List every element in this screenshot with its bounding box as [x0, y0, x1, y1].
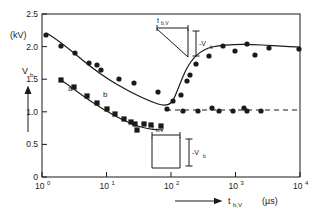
pulse-inset-v-sub: b [203, 153, 206, 159]
data-point [296, 46, 301, 51]
ramp-inset: t b,V -V b [157, 17, 213, 57]
x-axis-ticks [42, 172, 300, 177]
x-ticklabel-1e0-base: 10 [35, 181, 45, 191]
series-a-markers [58, 77, 163, 132]
pulse-inset-t-sub: b,V [156, 127, 164, 133]
data-point [184, 78, 189, 83]
y-ticklabel-2.5: 2.5 [26, 9, 38, 19]
data-point [244, 41, 249, 46]
pulse-inset-waveform [152, 137, 180, 168]
ramp-inset-v-label: -V [199, 40, 206, 47]
data-point [170, 98, 175, 103]
data-point [131, 80, 136, 85]
data-point [230, 108, 235, 113]
pulse-inset-t-label: t [152, 124, 154, 131]
data-point [58, 77, 63, 82]
x-unit-label: (µs) [262, 196, 278, 206]
data-point [72, 50, 77, 55]
data-point [258, 108, 263, 113]
data-point [180, 108, 185, 113]
y-axis-symbol: V [22, 66, 28, 76]
x-ticklabel-1e2-base: 10 [164, 181, 174, 191]
x-ticklabel-1e3: 10 3 [229, 180, 245, 191]
x-ticklabel-1e3-base: 10 [229, 181, 239, 191]
data-point [193, 61, 198, 66]
x-ticklabel-1e4-exp: 4 [305, 180, 309, 186]
data-point [58, 43, 63, 48]
data-point [178, 92, 183, 97]
data-point [266, 45, 271, 50]
data-point [232, 48, 237, 53]
data-point [141, 121, 146, 126]
y-ticklabel-0.5: 0.5 [26, 139, 38, 149]
data-point [86, 60, 91, 65]
data-point [43, 32, 48, 37]
x-ticklabel-1e1-base: 10 [100, 181, 110, 191]
data-point [112, 111, 117, 116]
x-ticklabel-1e4-base: 10 [293, 181, 303, 191]
data-point [252, 52, 257, 57]
x-ticklabel-1e0-exp: 0 [47, 180, 51, 186]
data-point [155, 89, 160, 94]
x-ticklabel-1e3-exp: 3 [241, 180, 245, 186]
data-point [116, 76, 121, 81]
pulse-inset: t b,V -V b [152, 124, 206, 168]
data-point [164, 106, 169, 111]
data-point [209, 105, 214, 110]
plot-frame [42, 14, 300, 177]
y-unit-label: (kV) [10, 30, 27, 40]
data-point [84, 93, 89, 98]
x-ticklabel-1e1-exp: 1 [112, 180, 116, 186]
x-axis-symbol-sub: b,V [233, 202, 242, 208]
data-point [220, 43, 225, 48]
x-axis-symbol: t [228, 196, 231, 206]
data-point [187, 72, 192, 77]
data-point [206, 53, 211, 58]
data-point [195, 108, 200, 113]
x-ticklabel-1e4: 10 4 [293, 180, 309, 191]
x-axis-tick-labels: 10 0 10 1 10 2 10 3 10 4 [35, 180, 309, 191]
y-axis-ticks [42, 14, 47, 177]
x-ticklabel-1e2: 10 2 [164, 180, 180, 191]
data-point [94, 100, 99, 105]
y-arrow-head [25, 86, 32, 95]
data-point [244, 108, 249, 113]
x-ticklabel-1e1: 10 1 [100, 180, 116, 191]
x-ticklabel-1e2-exp: 2 [176, 180, 180, 186]
curve-label-a: a [68, 84, 73, 93]
plot-border [42, 14, 300, 177]
figure-container: 2.5 2.0 1.5 1.0 0.5 0 (kV) V b 10 [0, 0, 315, 210]
data-point [94, 62, 99, 67]
curve-label-b: b [103, 90, 108, 99]
ramp-inset-waveform [157, 29, 188, 57]
data-point [132, 121, 137, 126]
pulse-inset-v-label: -V [192, 149, 199, 156]
data-point [98, 67, 103, 72]
x-arrow-head [214, 198, 223, 204]
ramp-inset-t-label: t [157, 17, 159, 24]
x-ticklabel-1e0: 10 0 [35, 180, 51, 191]
ramp-inset-v-sub: b [210, 44, 213, 50]
y-ticklabel-2.0: 2.0 [26, 42, 38, 52]
data-point [104, 106, 109, 111]
chart-svg: 2.5 2.0 1.5 1.0 0.5 0 (kV) V b 10 [0, 0, 315, 210]
ramp-inset-t-sub: b,V [161, 20, 169, 26]
x-axis-title: t b,V (µs) [175, 196, 278, 208]
data-point [121, 116, 126, 121]
data-point [134, 127, 139, 132]
data-point [216, 108, 221, 113]
